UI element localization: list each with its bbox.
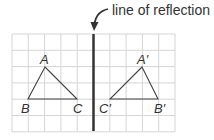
label-a-prime: A′	[136, 52, 149, 67]
label-b-prime: B′	[154, 101, 166, 116]
label-c: C	[73, 101, 83, 116]
label-a: A	[39, 52, 49, 67]
label-b: B	[21, 101, 30, 116]
label-c-prime: C′	[99, 101, 111, 116]
annotation-label: line of reflection	[112, 2, 210, 18]
reflection-diagram: line of reflection A B C A′ B′ C′	[0, 0, 214, 140]
arrowhead-icon	[91, 22, 99, 31]
arrow-icon	[95, 9, 109, 24]
